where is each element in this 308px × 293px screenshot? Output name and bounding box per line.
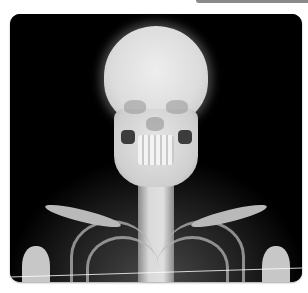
top-edge-bar [196,0,308,3]
orbit-right [166,100,188,114]
nasal-cavity [146,117,164,131]
humerus-right [262,246,290,282]
orbit-left [124,100,146,114]
xray-image [10,14,302,282]
maxillary-sinus-right [178,130,192,144]
maxillary-sinus-left [121,130,135,144]
teeth [138,135,174,165]
